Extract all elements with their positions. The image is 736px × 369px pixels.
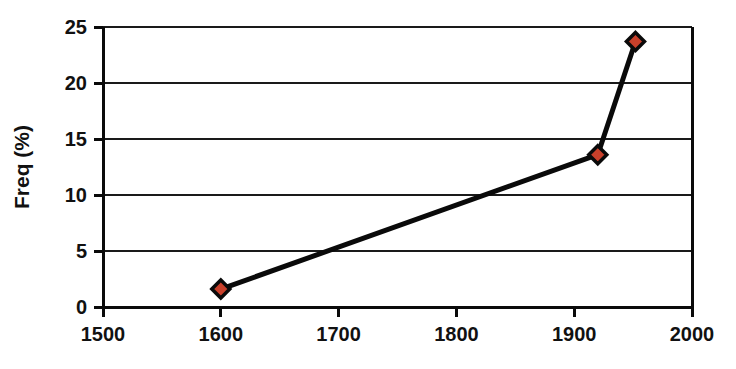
y-tick-label: 10 xyxy=(0,184,87,207)
y-tick-label: 5 xyxy=(0,240,87,263)
y-tick-label: 15 xyxy=(0,128,87,151)
x-tick-label: 2000 xyxy=(670,323,715,346)
x-tick-label: 1600 xyxy=(199,323,244,346)
data-point-marker xyxy=(212,280,230,298)
y-tick-label: 20 xyxy=(0,72,87,95)
gridlines xyxy=(103,27,692,307)
plot-frame xyxy=(103,27,692,307)
data-point-marker xyxy=(626,33,644,51)
x-tick-label: 1800 xyxy=(434,323,479,346)
y-tick-label: 25 xyxy=(0,16,87,39)
data-point-marker xyxy=(589,146,607,164)
data-markers xyxy=(212,33,645,299)
chart-container: Freq (%) 0510152025 15001600170018001900… xyxy=(0,0,736,369)
y-tick-label: 0 xyxy=(0,296,87,319)
x-tick-label: 1500 xyxy=(81,323,126,346)
line-chart-plot xyxy=(0,0,736,369)
x-tick-label: 1700 xyxy=(316,323,361,346)
x-tick-label: 1900 xyxy=(552,323,597,346)
